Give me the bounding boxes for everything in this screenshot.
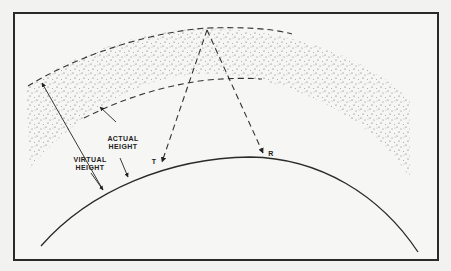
transmitter-label: T [150,158,158,166]
actual-height-arrow [100,107,116,122]
virtual-height-arrow-tail [91,173,103,190]
ionosphere-diagram [0,0,451,271]
receiver-label: R [267,150,275,158]
actual-height-arrow-tail [120,158,128,177]
virtual-height-arrow-lower [92,190,103,192]
virtual-height-label: VIRTUAL HEIGHT [65,156,115,172]
actual-height-label: ACTUAL HEIGHT [98,135,148,151]
